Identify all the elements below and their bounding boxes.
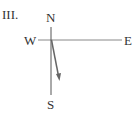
direction-arrow-icon	[52, 40, 62, 81]
compass-diagram	[0, 0, 133, 113]
